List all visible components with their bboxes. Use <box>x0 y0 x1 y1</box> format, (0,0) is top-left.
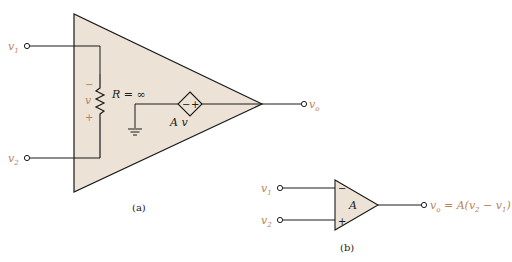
caption-a: (a) <box>132 202 146 213</box>
label-gain-b: A <box>348 199 357 212</box>
label-plus-a: + <box>85 112 93 123</box>
label-vo-a: vo <box>309 98 319 113</box>
label-v-a: v <box>85 94 92 107</box>
figure-b: − + A v1 v2 vo = A(v2 − v1) (b) <box>261 180 511 253</box>
terminal-v1-b <box>277 185 282 190</box>
terminal-v1-a <box>24 43 29 48</box>
output-equation-b: vo = A(v2 − v1) <box>430 199 511 214</box>
terminal-v2-b <box>277 217 282 222</box>
source-plus: + <box>191 99 199 110</box>
label-v1-a: v1 <box>8 40 19 55</box>
label-resistor: R = ∞ <box>111 88 146 101</box>
label-v2-b: v2 <box>261 214 272 229</box>
label-v2-a: v2 <box>8 152 19 167</box>
terminal-vo-b <box>421 202 426 207</box>
opamp-body-a <box>74 14 262 192</box>
source-minus: − <box>182 99 190 110</box>
label-minus-a: − <box>85 79 93 90</box>
op-amp-diagram: − + v1 v2 vo − v + R = ∞ A v (a) − + <box>0 0 512 262</box>
terminal-v2-a <box>24 155 29 160</box>
caption-b: (b) <box>340 242 354 253</box>
figure-a: − + v1 v2 vo − v + R = ∞ A v (a) <box>8 14 319 213</box>
label-source-gain: A v <box>169 116 188 129</box>
label-minus-b: − <box>338 183 346 194</box>
label-v1-b: v1 <box>261 182 272 197</box>
terminal-vo-a <box>301 101 306 106</box>
label-plus-b: + <box>338 216 346 227</box>
